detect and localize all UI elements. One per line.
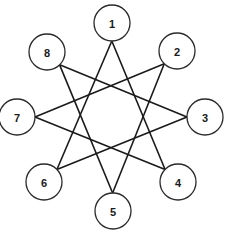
node-group: 12345678 xyxy=(0,5,223,229)
node-label: 8 xyxy=(44,47,50,59)
node-label: 2 xyxy=(174,46,180,58)
star-diagram: 12345678 xyxy=(0,0,228,239)
node-4: 4 xyxy=(160,164,196,200)
node-label: 1 xyxy=(109,18,115,30)
node-3: 3 xyxy=(187,99,223,135)
node-label: 3 xyxy=(202,112,208,124)
node-label: 7 xyxy=(14,112,20,124)
node-5: 5 xyxy=(95,193,131,229)
node-8: 8 xyxy=(29,34,65,70)
edge-7-2 xyxy=(35,64,164,117)
node-6: 6 xyxy=(26,164,62,200)
node-1: 1 xyxy=(94,5,130,41)
edge-2-5 xyxy=(113,64,165,193)
node-2: 2 xyxy=(159,33,195,69)
node-label: 6 xyxy=(41,177,47,189)
node-label: 5 xyxy=(110,206,116,218)
node-7: 7 xyxy=(0,99,35,135)
node-label: 4 xyxy=(175,177,182,189)
